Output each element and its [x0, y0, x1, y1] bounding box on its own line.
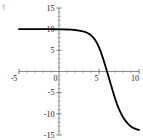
x-tick-label: 0	[54, 74, 58, 83]
x-tick-label: -5	[11, 74, 18, 83]
y-tick-label: -15	[44, 131, 55, 140]
corner-artifact-mark: ⸮	[2, 4, 6, 12]
y-tick-label: -5	[48, 88, 55, 97]
x-tick-label: 10	[131, 74, 139, 83]
y-tick-label: 5	[51, 46, 55, 55]
y-tick-label: 15	[47, 4, 55, 13]
x-tick-label: 5	[95, 74, 99, 83]
y-tick-label: -10	[44, 110, 55, 119]
chart-svg: -50510 -15-10-551015	[0, 0, 143, 140]
data-curve	[19, 29, 139, 130]
plot-area: ⸮ -50510 -15-10-551015	[0, 0, 143, 140]
x-axis-tick-labels: -50510	[11, 74, 139, 83]
